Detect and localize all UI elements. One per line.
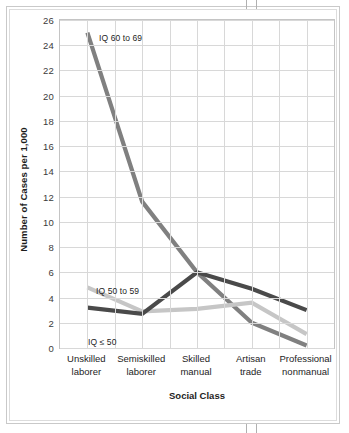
gridline-v-3: [142, 20, 143, 348]
gridline-v-6: [224, 20, 225, 348]
y-axis-title: Number of Cases per 1,000: [18, 115, 29, 265]
y-tick-label-10: 10: [30, 216, 54, 227]
gridline-h-0: [60, 348, 334, 349]
y-tick-label-22: 22: [30, 65, 54, 76]
gridline-v-4: [170, 20, 171, 348]
y-tick-label-12: 12: [30, 191, 54, 202]
y-tick-label-26: 26: [30, 15, 54, 26]
series-label-iq-60-to-69: IQ 60 to 69: [99, 33, 142, 43]
x-axis-tick-labels: UnskilledlaborerSemiskilledlaborerSkille…: [59, 353, 335, 385]
plot-area: [59, 19, 335, 349]
y-tick-label-20: 20: [30, 90, 54, 101]
line-chart: 02468101214161820222426 Number of Cases …: [0, 0, 349, 433]
y-axis-tick-labels: 02468101214161820222426: [30, 19, 54, 349]
gridline-v-1: [87, 20, 88, 348]
gridline-v-7: [252, 20, 253, 348]
y-tick-label-0: 0: [30, 343, 54, 354]
y-tick-label-14: 14: [30, 166, 54, 177]
x-tick-label-line2: nonmanual: [269, 366, 343, 379]
y-tick-label-16: 16: [30, 141, 54, 152]
y-tick-label-18: 18: [30, 115, 54, 126]
gridline-v-9: [307, 20, 308, 348]
gridline-v-8: [279, 20, 280, 348]
series-label-iq-le-50: IQ ≤ 50: [88, 337, 117, 347]
series-label-iq-50-to-59: IQ 50 to 59: [96, 286, 139, 296]
x-axis-title: Social Class: [59, 390, 335, 401]
y-tick-label-4: 4: [30, 292, 54, 303]
x-tick-label-4: Professionalnonmanual: [269, 353, 343, 378]
gridline-v-5: [197, 20, 198, 348]
gridline-v-2: [115, 20, 116, 348]
y-tick-label-24: 24: [30, 40, 54, 51]
y-tick-label-6: 6: [30, 267, 54, 278]
y-tick-label-8: 8: [30, 242, 54, 253]
y-tick-label-2: 2: [30, 317, 54, 328]
x-tick-label-line1: Professional: [269, 353, 343, 366]
